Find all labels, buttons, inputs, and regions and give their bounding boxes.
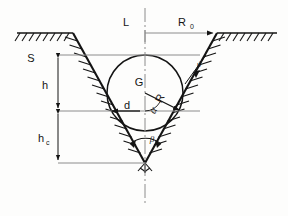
label-R0-base: R [178, 16, 186, 28]
label-circle-G: G [135, 76, 144, 88]
label-hc-subscript: c [46, 139, 50, 146]
label-surface-S: S [27, 52, 34, 64]
ground-surface-left [15, 33, 73, 41]
label-depth-h: h [42, 79, 48, 91]
label-hc-base: h [38, 132, 44, 144]
label-halfwidth-d: d [124, 99, 130, 111]
figure-canvas: L R 0 S h h c d G R α β ϑ [0, 0, 288, 216]
label-centerline: L [123, 16, 129, 28]
ground-surface-right [217, 33, 277, 41]
label-angle-beta: β [149, 134, 155, 144]
label-depth-hc: h c [38, 132, 50, 146]
label-R0-subscript: 0 [190, 23, 194, 30]
label-R0: R 0 [178, 16, 194, 30]
dimension-R0 [145, 30, 213, 42]
trench-cross-section-diagram: L R 0 S h h c d G R α β ϑ [0, 0, 288, 216]
